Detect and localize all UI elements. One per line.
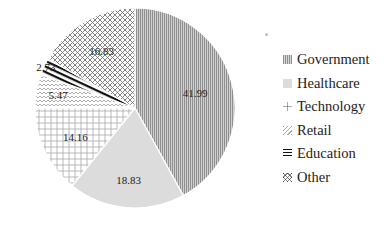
legend-item-other: Other xyxy=(283,166,369,190)
legend-item-education: Education xyxy=(283,142,369,166)
slice-value-label-retail: 5.47 xyxy=(49,89,69,101)
legend-swatch-retail-icon xyxy=(283,126,292,135)
legend-swatch-other-icon xyxy=(283,173,292,182)
legend-swatch-government-icon xyxy=(283,55,292,64)
legend-swatch-technology-icon xyxy=(283,102,292,111)
slice-value-label-healthcare: 18.83 xyxy=(116,174,141,186)
slice-value-label-other: 16.83 xyxy=(89,45,114,57)
legend-item-technology: Technology xyxy=(283,95,369,119)
legend-item-healthcare: Healthcare xyxy=(283,72,369,96)
legend-swatch-healthcare-icon xyxy=(283,79,292,88)
slice-value-label-technology: 14.16 xyxy=(63,131,88,143)
decorative-dot xyxy=(265,33,268,36)
legend-item-government: Government xyxy=(283,48,369,72)
slice-value-label-education: 2.73 xyxy=(36,61,56,73)
legend-item-retail: Retail xyxy=(283,119,369,143)
slice-value-label-government: 41.99 xyxy=(183,87,208,99)
legend: Government Healthcare Technology Retail … xyxy=(283,48,369,189)
legend-swatch-education-icon xyxy=(283,149,292,158)
